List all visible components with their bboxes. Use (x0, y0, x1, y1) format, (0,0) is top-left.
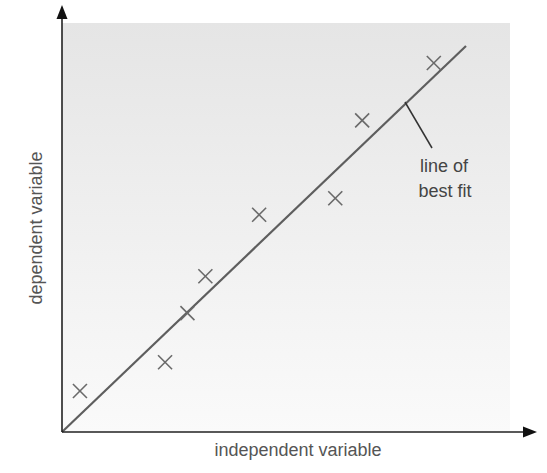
scatter-chart: independent variable dependent variable … (0, 0, 547, 473)
y-axis-arrow-icon (57, 5, 68, 19)
plot-background (62, 23, 510, 432)
annotation-line-1: line of (420, 156, 469, 176)
x-axis-arrow-icon (523, 427, 537, 438)
annotation-line-2: best fit (418, 181, 471, 201)
y-axis-label: dependent variable (26, 151, 46, 304)
x-axis-label: independent variable (214, 440, 381, 460)
